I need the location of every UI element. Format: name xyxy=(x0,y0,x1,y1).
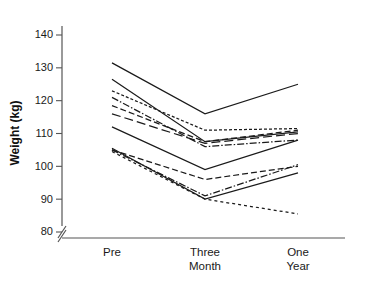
x-axis-category-labels: PreThreeMonthOneYear xyxy=(103,246,310,272)
series-line xyxy=(112,152,298,214)
series-line xyxy=(112,91,298,130)
y-axis-label: Weight (kg) xyxy=(8,100,22,165)
y-tick-label: 110 xyxy=(35,127,53,139)
y-tick-label: 140 xyxy=(35,28,53,40)
y-axis-ticks: 8090100110120130140 xyxy=(35,28,62,237)
y-tick-label: 130 xyxy=(35,61,53,73)
y-tick-label: 90 xyxy=(41,193,53,205)
series-lines xyxy=(112,63,298,214)
weight-over-time-line-chart: Weight (kg) 8090100110120130140 PreThree… xyxy=(0,0,365,302)
series-line xyxy=(112,150,298,180)
y-tick-label: 100 xyxy=(35,160,53,172)
series-line xyxy=(112,150,298,196)
series-line xyxy=(112,79,298,141)
x-category-label: One xyxy=(287,246,309,258)
y-tick-label: 120 xyxy=(35,94,53,106)
chart-canvas: Weight (kg) 8090100110120130140 PreThree… xyxy=(0,0,365,302)
x-category-label: Year xyxy=(286,260,309,272)
x-category-label: Pre xyxy=(103,246,121,258)
y-tick-label: 80 xyxy=(41,225,53,237)
series-line xyxy=(112,63,298,114)
x-category-label: Three xyxy=(190,246,220,258)
x-category-label: Month xyxy=(189,260,221,272)
y-axis-break-icon xyxy=(58,226,66,242)
